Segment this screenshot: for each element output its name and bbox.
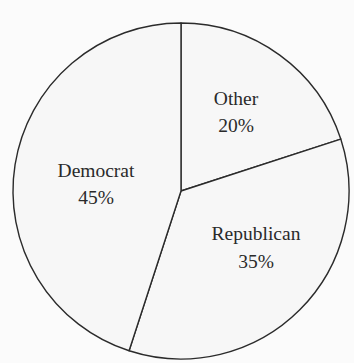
- pie-slices: [13, 23, 349, 359]
- slice-percent: 45%: [78, 187, 114, 208]
- slice-name: Republican: [212, 223, 301, 244]
- slice-name: Democrat: [58, 160, 135, 181]
- slice-percent: 35%: [238, 251, 274, 272]
- pie-chart: Other 20% Republican 35% Democrat 45%: [0, 0, 354, 363]
- slice-percent: 20%: [218, 115, 254, 136]
- slice-name: Other: [214, 88, 259, 109]
